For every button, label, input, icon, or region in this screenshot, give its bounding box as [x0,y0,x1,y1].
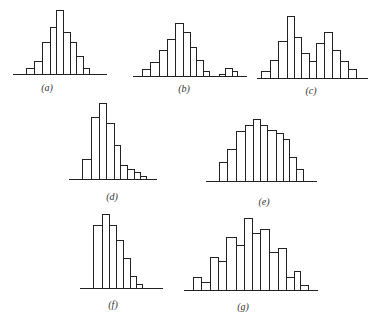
histogram-bar [202,283,211,291]
histogram-bar [302,54,310,79]
histogram-bar [211,258,219,291]
histogram-bar [287,278,295,291]
histogram-bar [227,238,237,291]
histogram-bar [64,33,71,75]
histogram-bar [110,226,117,289]
histogram-bar [57,11,64,75]
histogram-bar [151,63,160,77]
histogram-bar [237,246,245,291]
histogram-bar [246,126,254,182]
histogram-bar [261,230,270,291]
histogram-bar [341,62,349,79]
histogram-bar [128,170,135,180]
panel-label-d: (d) [106,191,118,202]
panel-label-c: (c) [305,85,316,96]
panel-label-b: (b) [178,83,190,94]
histogram-bar [77,57,84,75]
histogram-bar [228,150,237,182]
histogram-bar [137,285,143,289]
histogram-bar [83,160,92,180]
histogram-bar [254,120,261,182]
histogram-bar [176,24,184,77]
histogram-bar [100,104,107,180]
histogram-d [69,104,157,180]
histogram-bar [295,38,302,79]
histogram-bar [262,72,271,79]
histogram-e [206,120,317,182]
panel-label-e: (e) [258,196,269,207]
histogram-bar [27,69,35,75]
histogram-bar [160,51,168,77]
histogram-bar [107,124,115,180]
histogram-bar [71,43,77,75]
histogram-g [184,219,318,291]
histogram-bar [115,146,121,180]
histogram-bar [131,277,137,289]
histogram-bar [270,253,279,291]
panel-label-f: (f) [108,299,117,310]
histogram-bar [168,40,176,77]
panel-label-a: (a) [41,82,53,93]
histogram-a [13,11,107,75]
histogram-bar [220,163,228,182]
histogram-bar [277,134,284,182]
histogram-bar [94,226,103,289]
histogram-bar [92,118,100,180]
histogram-bar [295,272,301,291]
histogram-bar [135,173,141,180]
histogram-bar [290,158,297,182]
histogram-bar [261,126,268,182]
histogram-bar [184,33,191,77]
histogram-bar [349,70,357,79]
histogram-bar [194,278,202,291]
histogram-bar [204,72,210,77]
histogram-bar [271,61,279,79]
histogram-bar [237,132,246,182]
histogram-bar [253,234,261,291]
histogram-panel [0,0,369,319]
histogram-bar [279,249,287,291]
histogram-bar [84,69,90,75]
histogram-bar [143,70,151,77]
histogram-bar [103,215,110,289]
histogram-c [257,17,368,79]
histogram-bar [288,17,295,79]
histogram-bar [325,33,333,79]
histogram-f [80,215,163,289]
histogram-bar [301,286,309,291]
histogram-bar [197,61,204,77]
histogram-bar [121,166,128,180]
histogram-bar [268,131,277,182]
histogram-bar [226,69,233,77]
panel-label-g: (g) [237,301,249,312]
histogram-bar [124,259,131,289]
histogram-bar [51,28,57,75]
histogram-bar [35,62,43,75]
histogram-bar [333,51,341,79]
histogram-b [133,24,247,77]
histogram-bar [279,42,288,79]
histogram-bar [284,140,290,182]
histogram-bar [245,219,253,291]
histogram-bar [317,44,325,79]
histogram-bar [219,262,227,291]
histogram-bar [297,170,304,182]
histogram-bar [233,72,238,77]
histogram-bar [191,48,197,77]
histogram-bar [310,62,317,79]
histogram-bar [43,43,51,75]
histogram-bar [117,241,124,289]
